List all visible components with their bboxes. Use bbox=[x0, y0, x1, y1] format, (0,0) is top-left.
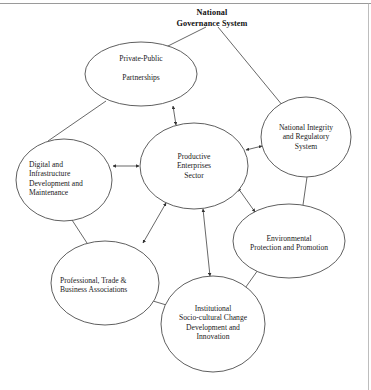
connector-productive-to-institutional bbox=[203, 209, 210, 276]
node-environmental-protection-promotion[interactable] bbox=[233, 204, 345, 278]
connector-productive-to-national-integrity bbox=[246, 146, 262, 150]
node-institutional-socio-cultural-change[interactable] bbox=[161, 276, 265, 372]
node-digital-infrastructure-development-maintenance[interactable] bbox=[16, 139, 112, 221]
diagram-title: National Governance System bbox=[152, 8, 272, 29]
connector-professional-to-productive bbox=[143, 203, 166, 243]
connector-title-to-private-public bbox=[166, 27, 206, 47]
node-private-public-partnerships[interactable] bbox=[85, 42, 197, 106]
governance-system-diagram bbox=[0, 0, 371, 390]
connector-title-to-national-integrity bbox=[218, 27, 283, 106]
node-shape-layer bbox=[16, 42, 351, 372]
node-national-integrity-regulatory-system[interactable] bbox=[261, 97, 351, 177]
figure-canvas: National Governance System Private-Publi… bbox=[0, 0, 371, 390]
connector-national-integrity-to-environmental bbox=[303, 177, 307, 205]
connector-private-public-to-productive bbox=[173, 106, 176, 125]
node-productive-enterprises-sector[interactable] bbox=[140, 123, 248, 209]
connector-private-public-to-digital bbox=[48, 101, 106, 141]
connector-productive-to-environmental bbox=[238, 188, 255, 212]
connector-digital-to-professional bbox=[72, 220, 87, 243]
node-professional-trade-business-associations[interactable] bbox=[51, 241, 159, 325]
